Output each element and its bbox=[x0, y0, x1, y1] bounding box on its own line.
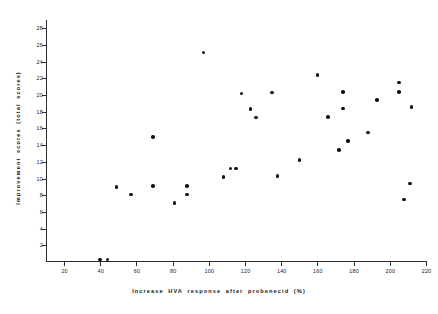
data-point bbox=[326, 115, 330, 119]
y-axis-title: Improvement scores (total scores) bbox=[15, 38, 21, 238]
data-point bbox=[106, 258, 110, 262]
y-tick-label: 26 bbox=[37, 42, 43, 48]
data-point bbox=[129, 193, 133, 197]
data-point bbox=[276, 174, 280, 178]
data-point bbox=[151, 135, 155, 139]
data-point bbox=[270, 91, 274, 95]
data-point bbox=[98, 258, 102, 262]
data-point bbox=[316, 73, 320, 77]
y-tick-label: 22 bbox=[37, 75, 43, 81]
data-point bbox=[346, 139, 350, 143]
x-tick-label: 20 bbox=[61, 268, 67, 274]
x-axis-title: Increase HVA response after probenecid (… bbox=[0, 288, 438, 294]
x-tick-label: 120 bbox=[241, 268, 251, 274]
y-tick-label: 24 bbox=[37, 59, 43, 65]
data-point bbox=[397, 81, 401, 85]
y-tick-label: 10 bbox=[37, 176, 43, 182]
y-tick-label: 14 bbox=[37, 142, 43, 148]
data-point bbox=[410, 105, 414, 109]
data-point bbox=[240, 92, 244, 96]
y-tick-label: 4 bbox=[40, 226, 43, 232]
x-tick-label: 160 bbox=[313, 268, 323, 274]
data-point bbox=[337, 148, 341, 152]
x-tick-label: 100 bbox=[205, 268, 215, 274]
data-point bbox=[341, 90, 345, 94]
y-tick-label: 2 bbox=[40, 242, 43, 248]
plot-area bbox=[46, 20, 426, 262]
y-tick-label: 12 bbox=[37, 159, 43, 165]
x-tick-label: 60 bbox=[134, 268, 140, 274]
data-point bbox=[249, 107, 253, 111]
data-point bbox=[151, 184, 155, 188]
x-tick-label: 220 bbox=[422, 268, 432, 274]
data-point bbox=[115, 185, 119, 189]
x-tick-label: 140 bbox=[277, 268, 287, 274]
y-tick-label: 6 bbox=[40, 209, 43, 215]
y-tick-label: 20 bbox=[37, 92, 43, 98]
data-point bbox=[397, 90, 401, 94]
data-point bbox=[229, 167, 233, 171]
data-point bbox=[341, 107, 345, 111]
x-tick-mark bbox=[426, 261, 427, 266]
y-tick-label: 16 bbox=[37, 125, 43, 131]
data-point bbox=[185, 193, 189, 197]
y-tick-label: 8 bbox=[40, 192, 43, 198]
y-tick-label: 18 bbox=[37, 109, 43, 115]
data-point bbox=[366, 131, 370, 135]
data-point bbox=[234, 167, 238, 171]
x-tick-label: 80 bbox=[170, 268, 176, 274]
y-tick-label: 28 bbox=[37, 25, 43, 31]
data-point bbox=[408, 182, 412, 186]
scatter-plot-figure: 246810121416182022242628 204060801001201… bbox=[0, 0, 438, 314]
data-point bbox=[185, 184, 189, 188]
data-point bbox=[202, 51, 206, 55]
x-tick-label: 180 bbox=[349, 268, 359, 274]
data-point bbox=[375, 98, 379, 102]
data-point bbox=[173, 201, 177, 205]
data-point bbox=[298, 158, 302, 162]
data-point bbox=[402, 198, 406, 202]
x-tick-label: 200 bbox=[385, 268, 395, 274]
data-point bbox=[254, 116, 258, 120]
data-point bbox=[222, 175, 226, 179]
x-tick-label: 40 bbox=[98, 268, 104, 274]
